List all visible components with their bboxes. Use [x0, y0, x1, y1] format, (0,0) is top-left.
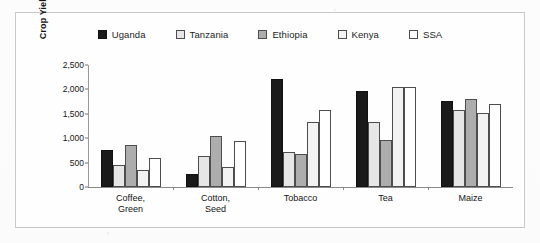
bar-uganda[interactable]	[271, 79, 283, 187]
x-axis-line	[88, 187, 513, 188]
bar-tanzania[interactable]	[283, 152, 295, 187]
bar-tanzania[interactable]	[113, 165, 125, 187]
x-axis-category-label: Tobacco	[284, 193, 318, 204]
bar-ssa[interactable]	[489, 104, 501, 187]
bar-kenya[interactable]	[222, 167, 234, 187]
bar-group	[356, 65, 416, 187]
bar-ssa[interactable]	[319, 110, 331, 187]
y-axis-tick-label: 1,500	[63, 109, 84, 119]
x-axis-category-label: Tea	[378, 193, 393, 204]
bar-tanzania[interactable]	[368, 122, 380, 187]
y-axis-tick-label: 2,500	[63, 60, 84, 70]
x-axis-tick-mark	[343, 187, 344, 190]
bar-kenya[interactable]	[137, 170, 149, 187]
y-axis-tick-label: 500	[70, 158, 84, 168]
bar-uganda[interactable]	[101, 150, 113, 187]
y-axis-title: Crop Yield (kg/ha)	[38, 0, 50, 60]
y-axis-tick-label: 2,000	[63, 84, 84, 94]
bar-group	[186, 65, 246, 187]
bar-ethiopia[interactable]	[380, 140, 392, 187]
bar-group	[271, 65, 331, 187]
bar-ethiopia[interactable]	[210, 136, 222, 187]
bar-ethiopia[interactable]	[295, 154, 307, 187]
bar-uganda[interactable]	[186, 174, 198, 187]
bar-tanzania[interactable]	[453, 110, 465, 187]
x-axis-category-label: Coffee, Green	[116, 193, 145, 215]
bar-kenya[interactable]	[392, 87, 404, 187]
bar-ssa[interactable]	[404, 87, 416, 187]
x-axis-tick-mark	[173, 187, 174, 190]
x-axis-tick-mark	[428, 187, 429, 190]
y-axis-tick-label: 1,000	[63, 133, 84, 143]
bar-uganda[interactable]	[356, 91, 368, 187]
x-axis-category-label: Maize	[458, 193, 482, 204]
bar-kenya[interactable]	[307, 122, 319, 187]
bar-ethiopia[interactable]	[465, 99, 477, 187]
x-axis-category-label: Cotton, Seed	[201, 193, 230, 215]
y-axis-tick-label: 0	[79, 182, 84, 192]
chart-frame: UgandaTanzaniaEthiopiaKenyaSSA Crop Yiel…	[15, 12, 525, 228]
bar-uganda[interactable]	[441, 101, 453, 187]
bar-ethiopia[interactable]	[125, 145, 137, 187]
x-axis-labels: Coffee, GreenCotton, SeedTobaccoTeaMaize	[88, 193, 513, 227]
bar-tanzania[interactable]	[198, 156, 210, 187]
plot-area	[88, 65, 513, 187]
bar-kenya[interactable]	[477, 113, 489, 187]
plot-wrapper: Crop Yield (kg/ha) 05001,0001,5002,0002,…	[16, 13, 524, 227]
bar-group	[101, 65, 161, 187]
x-axis-tick-mark	[258, 187, 259, 190]
bar-ssa[interactable]	[149, 158, 161, 187]
y-axis-ticks: 05001,0001,5002,0002,500	[46, 65, 88, 187]
bar-group	[441, 65, 501, 187]
bar-ssa[interactable]	[234, 141, 246, 187]
